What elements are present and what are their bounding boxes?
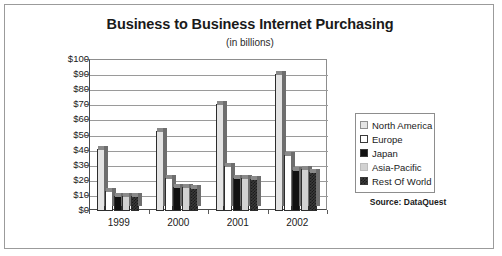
bar-depth-top (123, 193, 129, 197)
bar-depth-top (217, 101, 223, 105)
bar-depth-right (316, 169, 320, 206)
x-axis-tick-label: 2000 (150, 217, 206, 228)
bar (131, 196, 139, 211)
source-note: Source: DataQuest (355, 197, 461, 207)
legend: North AmericaEuropeJapanAsia-PacificRest… (355, 113, 435, 193)
bar-depth-right (257, 176, 261, 206)
legend-item-label: Rest Of World (372, 176, 431, 187)
x-axis-tick-mark (149, 210, 150, 214)
bar (114, 196, 122, 211)
bar-depth-top (234, 175, 240, 179)
bar-depth-right (197, 185, 201, 206)
bar-depth-top (115, 193, 121, 197)
bar-depth-top (225, 163, 231, 167)
bar-depth-right (138, 193, 142, 206)
bar (156, 131, 164, 211)
bar (250, 179, 258, 211)
y-axis-tick-label: $60 (49, 114, 89, 123)
y-axis-tick-label: $70 (49, 99, 89, 108)
plot-wrap: 1999200020012002 (89, 59, 327, 224)
bar-depth-top (106, 188, 112, 192)
x-axis-tick-mark (89, 210, 90, 214)
legend-item[interactable]: Asia-Pacific (360, 160, 430, 174)
bar (275, 74, 283, 211)
x-axis: 1999200020012002 (89, 210, 327, 240)
y-axis-tick-label: $40 (49, 145, 89, 154)
y-axis-tick-label: $0 (49, 205, 89, 214)
bar (284, 155, 292, 211)
legend-swatch-icon (360, 163, 368, 171)
legend-item-label: Europe (372, 134, 403, 145)
x-axis-tick-mark (268, 210, 269, 214)
legend-item-label: North America (372, 120, 432, 131)
bar-depth-top (310, 169, 316, 173)
x-axis-tick-label: 1999 (91, 217, 147, 228)
x-axis-tick-label: 2001 (210, 217, 266, 228)
y-axis-tick-label: $30 (49, 160, 89, 169)
legend-item[interactable]: North America (360, 118, 430, 132)
bar (97, 149, 105, 211)
bar-depth-top (276, 71, 282, 75)
bar-depth-top (191, 185, 197, 189)
bar (173, 187, 181, 211)
gridline (90, 136, 328, 137)
y-axis-tick-label: $10 (49, 190, 89, 199)
bar-depth-top (251, 176, 257, 180)
bar (224, 166, 232, 211)
gridline (90, 75, 328, 76)
bar (122, 196, 130, 211)
legend-swatch-icon (360, 177, 368, 185)
bar-depth-top (174, 184, 180, 188)
bar (165, 178, 173, 211)
gridline (90, 105, 328, 106)
legend-item[interactable]: Rest Of World (360, 174, 430, 188)
bar-depth-top (302, 166, 308, 170)
bar (301, 169, 309, 211)
x-axis-tick-label: 2002 (269, 217, 325, 228)
bar (309, 172, 317, 211)
bar (190, 188, 198, 211)
y-axis-tick-label: $100 (49, 54, 89, 63)
bar-depth-top (166, 175, 172, 179)
bar-depth-top (98, 146, 104, 150)
legend-swatch-icon (360, 121, 368, 129)
gridline (90, 120, 328, 121)
legend-item-label: Japan (372, 148, 398, 159)
bar (105, 191, 113, 211)
bar (182, 187, 190, 211)
bar-depth-top (157, 128, 163, 132)
y-axis-tick-label: $80 (49, 84, 89, 93)
y-axis: $100$90$80$70$60$50$40$30$20$10$0 (5, 5, 89, 170)
bar (216, 104, 224, 211)
y-axis-tick-label: $20 (49, 175, 89, 184)
bar-depth-top (242, 175, 248, 179)
bar-depth-top (285, 152, 291, 156)
chart-frame: Business to Business Internet Purchasing… (4, 4, 494, 249)
bar (233, 178, 241, 211)
legend-swatch-icon (360, 149, 368, 157)
bar (292, 170, 300, 211)
bar-depth-top (183, 184, 189, 188)
gridline (90, 90, 328, 91)
legend-item-label: Asia-Pacific (372, 162, 422, 173)
bar-depth-top (132, 193, 138, 197)
y-axis-tick-label: $50 (49, 130, 89, 139)
bar-depth-top (293, 167, 299, 171)
plot-area (89, 59, 327, 210)
bar (241, 178, 249, 211)
legend-item[interactable]: Europe (360, 132, 430, 146)
y-axis-tick-label: $90 (49, 69, 89, 78)
x-axis-tick-mark (208, 210, 209, 214)
legend-swatch-icon (360, 135, 368, 143)
legend-item[interactable]: Japan (360, 146, 430, 160)
x-axis-tick-mark (327, 210, 328, 214)
